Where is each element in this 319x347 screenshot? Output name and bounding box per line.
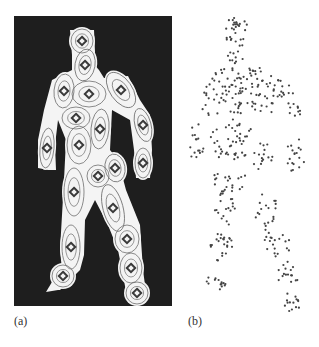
panel-a-silhouette-blobs: (a): [0, 0, 180, 347]
sampled-points: [189, 17, 305, 312]
panel-a-label: (a): [14, 314, 27, 329]
point-cloud-figure: [180, 0, 319, 347]
panel-b-point-scatter: [180, 0, 319, 347]
panel-b-label: (b): [188, 314, 202, 329]
silhouette-blob-figure: [0, 0, 180, 347]
